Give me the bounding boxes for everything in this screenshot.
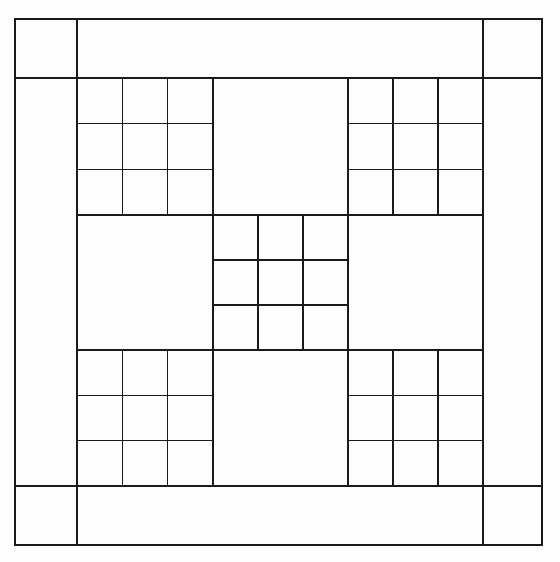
quilt-block-diagram	[0, 0, 560, 562]
canvas-background	[0, 0, 560, 562]
